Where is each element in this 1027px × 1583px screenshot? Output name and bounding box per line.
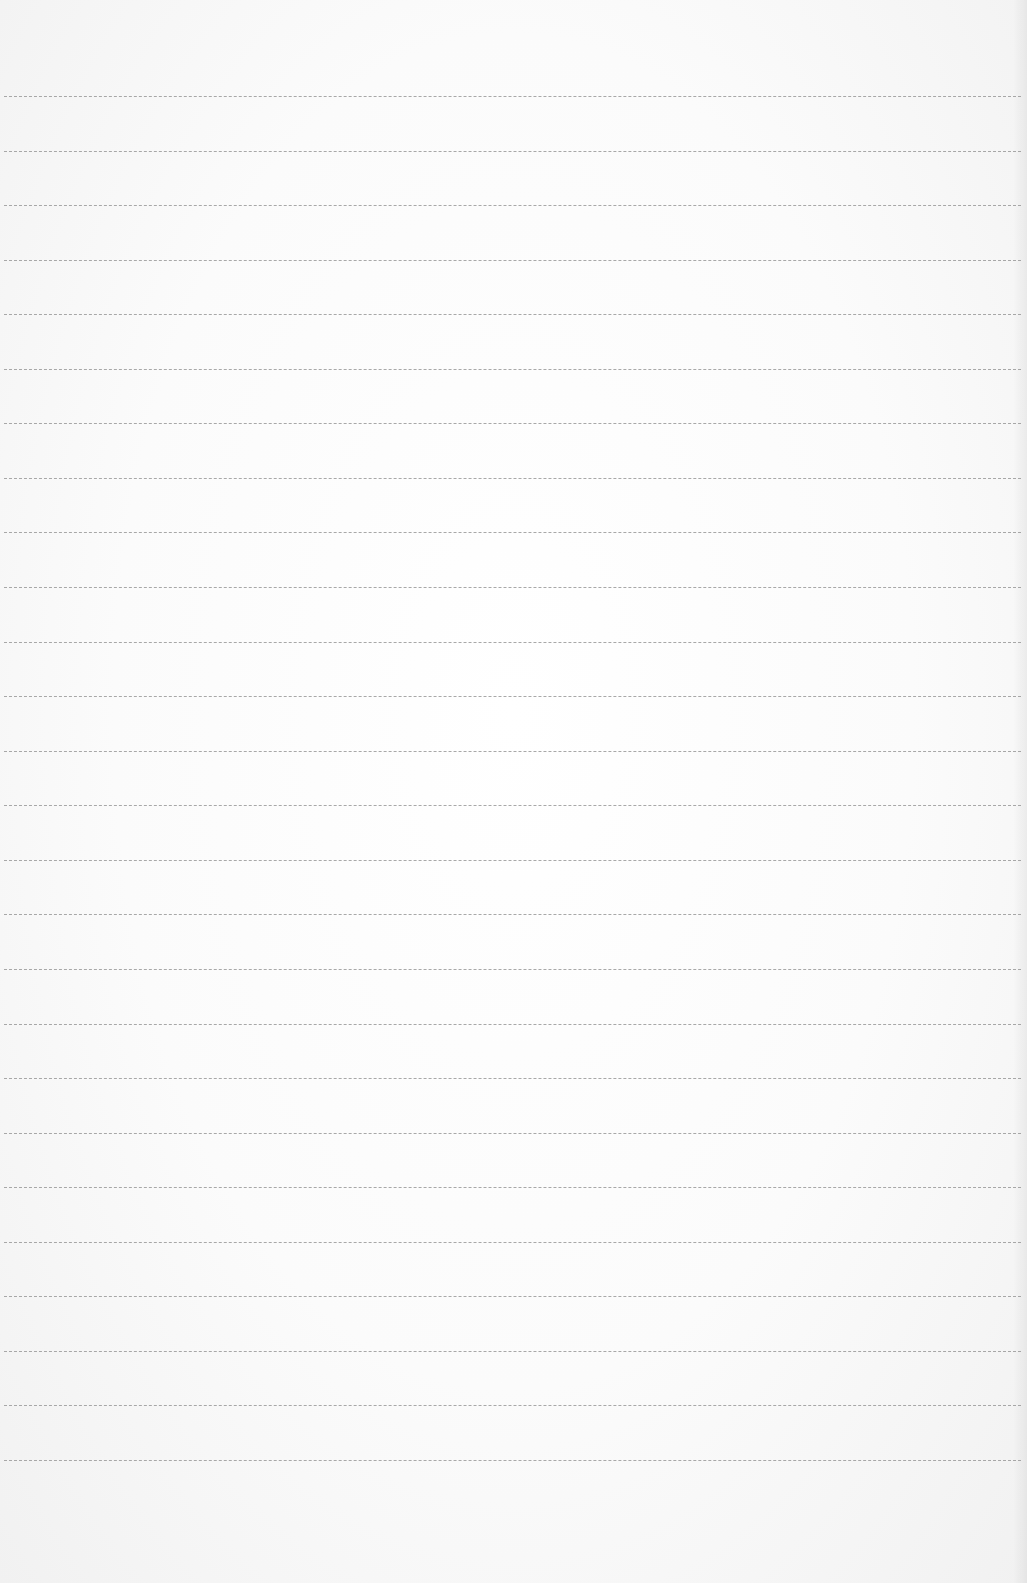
ruled-line <box>4 478 1021 479</box>
ruled-line <box>4 260 1021 261</box>
ruled-line <box>4 96 1021 97</box>
ruled-line <box>4 151 1021 152</box>
ruled-line <box>4 1078 1021 1079</box>
ruled-line <box>4 1133 1021 1134</box>
ruled-line <box>4 532 1021 533</box>
ruled-line <box>4 1296 1021 1297</box>
ruled-line <box>4 696 1021 697</box>
ruled-line <box>4 314 1021 315</box>
ruled-line <box>4 205 1021 206</box>
ruled-line <box>4 1460 1021 1461</box>
ruled-line <box>4 423 1021 424</box>
ruled-line <box>4 369 1021 370</box>
ruled-line <box>4 1405 1021 1406</box>
ruled-line <box>4 751 1021 752</box>
ruled-line <box>4 1187 1021 1188</box>
ruled-line <box>4 805 1021 806</box>
ruled-line <box>4 587 1021 588</box>
ruled-line <box>4 1351 1021 1352</box>
ruled-line <box>4 642 1021 643</box>
ruled-line <box>4 914 1021 915</box>
page-edge-shadow <box>1013 0 1027 1583</box>
ruled-line <box>4 1242 1021 1243</box>
ruled-line <box>4 969 1021 970</box>
ruled-line <box>4 860 1021 861</box>
lined-paper-sheet <box>0 0 1027 1583</box>
ruled-line <box>4 1024 1021 1025</box>
